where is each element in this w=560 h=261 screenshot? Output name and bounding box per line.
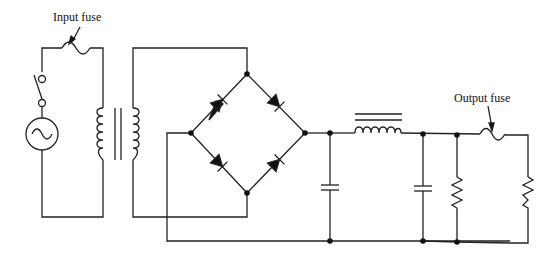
secondary-coil-icon	[133, 108, 139, 160]
resistor-2-icon	[423, 177, 533, 243]
capacitor-2-icon	[414, 134, 432, 241]
filter-section	[321, 114, 533, 243]
capacitor-1-icon	[321, 133, 339, 241]
resistor-1-icon	[452, 135, 462, 242]
input-fuse-label: Input fuse	[53, 10, 101, 25]
switch-icon	[34, 75, 46, 107]
junction-dots	[188, 71, 460, 245]
output-fuse-arrow-icon	[488, 106, 494, 131]
input-fuse-arrow-icon	[69, 27, 80, 44]
circuit-diagram: Input fuse Output fuse	[0, 0, 560, 261]
primary-circuit	[26, 42, 103, 217]
choke-icon	[355, 127, 401, 133]
schematic	[0, 0, 560, 261]
primary-coil-icon	[97, 108, 103, 160]
transformer-core-icon	[115, 108, 121, 160]
input-fuse-icon	[62, 42, 90, 54]
output-fuse-label: Output fuse	[454, 91, 510, 106]
ac-source-icon	[26, 118, 58, 150]
